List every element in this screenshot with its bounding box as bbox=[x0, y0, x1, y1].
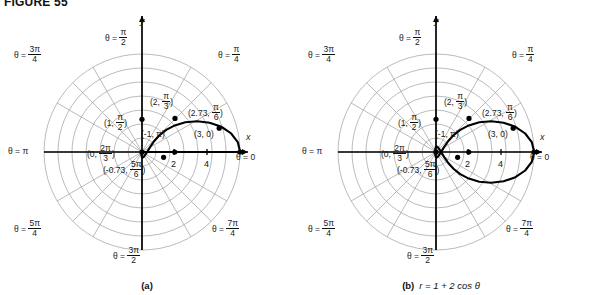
angle-label-pi-a: θ = π bbox=[8, 146, 28, 156]
theta-zero-label-a: θ = 0 bbox=[236, 152, 255, 162]
angle-label-3pi-over-2-a: θ = 3π2 bbox=[113, 246, 140, 264]
x-axis-label-b: x bbox=[540, 132, 545, 142]
point-label-neg073-5pi6-b: (-0.73, 5π6) bbox=[397, 160, 439, 178]
point-label-neg073-5pi6-a: (-0.73, 5π6) bbox=[103, 160, 145, 178]
point-label-273-pi6-a: (2.73, π6) bbox=[188, 103, 223, 121]
panel-a: 4 2 y θ = π2 θ = 3π4 θ = π4 θ bbox=[0, 0, 294, 295]
point-label-2-pi3-b: (2, π3) bbox=[444, 92, 467, 110]
angle-label-5pi-over-4-a: θ = 5π4 bbox=[14, 219, 41, 237]
point-label-2-pi3-a: (2, π3) bbox=[150, 92, 173, 110]
angle-label-pi-over-4-b: θ = π4 bbox=[512, 45, 534, 63]
angle-label-7pi-over-4-a: θ = 7π4 bbox=[212, 219, 239, 237]
panel-b: 4 2 y θ = π2 θ = 3π4 θ = π4 θ bbox=[294, 0, 588, 295]
angle-label-7pi-over-4-b: θ = 7π4 bbox=[506, 219, 533, 237]
angle-label-3pi-over-4-b: θ = 3π4 bbox=[308, 45, 335, 63]
panel-caption-a: (a) bbox=[0, 280, 294, 291]
angle-label-pi-over-2-b: θ = π2 bbox=[399, 28, 421, 46]
point-label-1-pi2-a: (1, π2) bbox=[104, 113, 127, 131]
angle-label-3pi-over-4-a: θ = 3π4 bbox=[14, 45, 41, 63]
angle-label-5pi-over-4-b: θ = 5π4 bbox=[308, 219, 335, 237]
point-label-neg1-pi-b: (-1, π) bbox=[435, 129, 459, 139]
svg-text:2: 2 bbox=[171, 159, 176, 169]
svg-text:4: 4 bbox=[498, 159, 503, 169]
point-label-273-pi6-b: (2.73, π6) bbox=[482, 103, 517, 121]
point-label-3-0-b: (3, 0) bbox=[488, 129, 508, 139]
theta-zero-label-b: θ = 0 bbox=[530, 152, 549, 162]
angle-label-pi-b: θ = π bbox=[302, 146, 322, 156]
y-axis-label-a: y bbox=[140, 16, 145, 26]
svg-text:4: 4 bbox=[204, 159, 209, 169]
point-label-3-0-a: (3, 0) bbox=[194, 129, 214, 139]
y-axis-label-b: y bbox=[434, 16, 439, 26]
x-axis-label-a: x bbox=[246, 132, 251, 142]
panel-caption-b: (b)r = 1 + 2 cos θ bbox=[294, 280, 588, 291]
point-label-1-pi2-b: (1, π2) bbox=[398, 113, 421, 131]
angle-label-pi-over-4-a: θ = π4 bbox=[218, 45, 240, 63]
angle-label-pi-over-2-a: θ = π2 bbox=[105, 28, 127, 46]
svg-text:2: 2 bbox=[465, 159, 470, 169]
angle-label-3pi-over-2-b: θ = 3π2 bbox=[407, 246, 434, 264]
panel-equation-b: r = 1 + 2 cos θ bbox=[414, 280, 480, 291]
point-label-neg1-pi-a: (-1, π) bbox=[141, 129, 165, 139]
